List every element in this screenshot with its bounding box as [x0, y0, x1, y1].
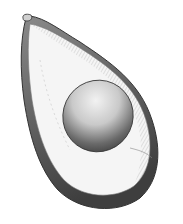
avocado-illustration [0, 0, 183, 224]
illustration-canvas [0, 0, 183, 224]
avocado-stem [23, 14, 32, 21]
